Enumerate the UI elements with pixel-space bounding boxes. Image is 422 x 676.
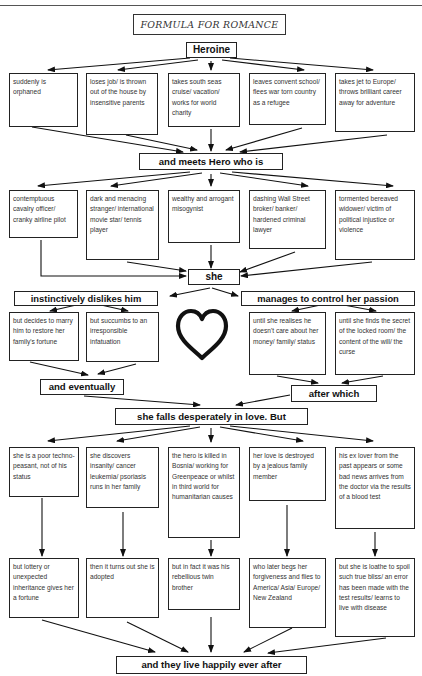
heroine-event-5: takes jet to Europe/ throws brilliant ca… bbox=[335, 73, 415, 132]
right-option-2: until she finds the secret of the locked… bbox=[335, 312, 415, 375]
heroine-event-2: loses job/ is thrown out of the house by… bbox=[86, 73, 158, 135]
diagram-title: FORMULA FOR ROMANCE bbox=[133, 14, 286, 35]
she-node: she bbox=[188, 269, 240, 285]
dislikes-him-node: instinctively dislikes him bbox=[14, 291, 158, 306]
after-which-node: after which bbox=[291, 385, 377, 402]
and-eventually-node: and eventually bbox=[40, 379, 124, 395]
heroine-event-3: takes south seas cruise/ vacation/ works… bbox=[168, 73, 240, 127]
heroine-event-1: suddenly is orphaned bbox=[9, 73, 78, 127]
resolution-5: but she is loathe to spoil such true bli… bbox=[335, 558, 415, 637]
heart-icon bbox=[174, 307, 230, 363]
left-option-1: but decides to marry him to restore her … bbox=[9, 312, 79, 361]
hero-type-1: contemptuous cavalry officer/ cranky air… bbox=[9, 190, 78, 238]
hero-type-2: dark and menacing stranger/ internationa… bbox=[86, 190, 159, 260]
hero-type-4: dashing Wall Street broker/ banker/ hard… bbox=[249, 190, 326, 249]
obstacle-2: she discovers insanity/ cancer leukemia/… bbox=[86, 447, 159, 508]
heroine-event-4: leaves convent school/ flees war torn co… bbox=[249, 73, 326, 125]
resolution-4: who later begs her forgiveness and flies… bbox=[249, 558, 326, 628]
hero-type-3: wealthy and arrogant misogynist bbox=[168, 190, 240, 243]
resolution-1: but lottery or unexpected inheritance gi… bbox=[9, 558, 79, 618]
obstacle-3: the hero is killed in Bosnia/ working fo… bbox=[168, 447, 240, 538]
happily-ever-after-node: and they live happily ever after bbox=[116, 656, 307, 674]
falls-in-love-node: she falls desperately in love. But bbox=[115, 408, 308, 425]
right-option-1: until she realises he doesn't care about… bbox=[249, 312, 326, 375]
meets-hero-node: and meets Hero who is bbox=[139, 153, 283, 170]
resolution-3: but in fact it was his rebellious twin b… bbox=[168, 558, 240, 610]
resolution-2: then it turns out she is adopted bbox=[86, 558, 159, 618]
obstacle-1: she is a poor techno-peasant, not of his… bbox=[9, 447, 79, 497]
left-option-2: but succumbs to an irresponsible infatua… bbox=[86, 312, 159, 362]
obstacle-4: her love is destroyed by a jealous famil… bbox=[249, 447, 326, 501]
hero-type-5: tormented bereaved widower/ victim of po… bbox=[335, 190, 415, 260]
heroine-node: Heroine bbox=[186, 42, 237, 58]
controls-passion-node: manages to control her passion bbox=[241, 291, 415, 306]
obstacle-5: his ex lover from the past appears or so… bbox=[335, 447, 415, 529]
